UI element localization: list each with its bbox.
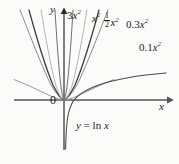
- label-half-x-squared: 12x2: [104, 12, 119, 29]
- label-0-1-x-squared: 0.1x2: [139, 41, 161, 53]
- label-0-3-x-squared: 0.3x2: [126, 18, 148, 30]
- label-y-equals-ln-x: y = ln x: [76, 120, 109, 131]
- origin-label: 0: [50, 94, 56, 106]
- math-graph-figure: [0, 0, 179, 164]
- y-axis-label: y: [50, 4, 55, 15]
- figure-background: [0, 0, 179, 164]
- label-x-squared: x2: [92, 12, 100, 24]
- label-3x-squared: 3x2: [67, 9, 81, 21]
- x-axis-label: x: [159, 101, 164, 112]
